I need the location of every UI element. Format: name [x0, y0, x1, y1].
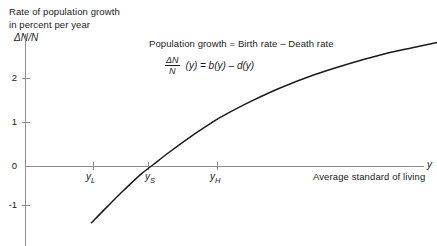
- equation-denominator: N: [168, 66, 177, 76]
- annotation-equation: ΔN N (y) = b(y) – d(y): [165, 55, 334, 76]
- chart-figure: Rate of population growth in percent per…: [0, 0, 437, 246]
- y-tick-label-1: 1: [0, 116, 17, 127]
- x-tick-label-yh-sub: H: [215, 176, 220, 185]
- annotation-statement: Population growth = Birth rate – Death r…: [149, 38, 334, 49]
- equation-fraction: ΔN N: [165, 55, 180, 76]
- y-tick-label-minus-1: -1: [0, 199, 17, 210]
- x-axis-symbol-label: y: [427, 159, 432, 170]
- x-tick-label-ys: yS: [145, 171, 155, 185]
- x-tick-label-yl-sub: L: [91, 176, 95, 185]
- x-tick-label-ys-sub: S: [150, 176, 155, 185]
- x-axis-caption: Average standard of living: [313, 171, 425, 182]
- x-tick-label-yl: yL: [86, 171, 95, 185]
- y-tick-label-0: 0: [0, 160, 17, 171]
- equation-numerator: ΔN: [165, 55, 180, 65]
- plot-area: [0, 0, 437, 246]
- equation-right-hand-side: (y) = b(y) – d(y): [186, 60, 255, 71]
- chart-annotation: Population growth = Birth rate – Death r…: [149, 38, 334, 76]
- y-tick-label-2: 2: [0, 72, 17, 83]
- x-tick-label-yh: yH: [210, 171, 220, 185]
